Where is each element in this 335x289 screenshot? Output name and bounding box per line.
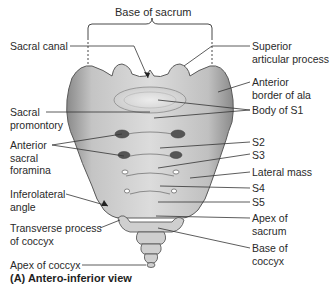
figure-caption: (A) Antero-inferior view bbox=[10, 272, 132, 284]
label-body-of-s1: Body of S1 bbox=[252, 104, 303, 117]
label-lateral-mass: Lateral mass bbox=[252, 166, 312, 179]
label-s5: S5 bbox=[252, 196, 265, 209]
sacrum-diagram: Base of sacrum Sacral canal Sacral promo… bbox=[0, 0, 335, 289]
label-inferolateral-angle: Inferolateral angle bbox=[10, 188, 65, 213]
label-apex-of-sacrum: Apex of sacrum bbox=[252, 212, 288, 237]
label-s3: S3 bbox=[252, 149, 265, 162]
label-transverse-process-of-coccyx: Transverse process of coccyx bbox=[10, 222, 102, 247]
label-sacral-promontory: Sacral promontory bbox=[10, 106, 63, 131]
s1-body bbox=[114, 87, 186, 113]
base-bracket bbox=[88, 18, 212, 64]
label-anterior-sacral-foramina: Anterior sacral foramina bbox=[10, 139, 51, 177]
label-s2: S2 bbox=[252, 136, 265, 149]
label-anterior-border-of-ala: Anterior border of ala bbox=[252, 76, 311, 101]
label-superior-articular-process: Superior articular process bbox=[252, 40, 329, 65]
label-s4: S4 bbox=[252, 182, 265, 195]
label-sacral-canal: Sacral canal bbox=[10, 40, 68, 53]
label-apex-of-coccyx: Apex of coccyx bbox=[10, 259, 81, 272]
coccyx-shape bbox=[118, 216, 184, 268]
label-base-of-coccyx: Base of coccyx bbox=[252, 242, 288, 267]
title-base-of-sacrum: Base of sacrum bbox=[115, 6, 191, 19]
